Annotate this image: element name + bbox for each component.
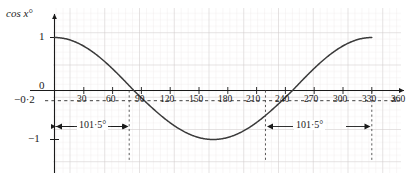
y-tick-label-1: 1 <box>39 31 45 42</box>
x-tick-label-360: 360 <box>391 95 405 105</box>
x-tick-label-240: 240 <box>275 95 289 105</box>
cosine-graph-figure: cos x° x 1 0 −0·2 −1 30 60 90 120 150 18… <box>0 0 414 181</box>
y-tick-label-neg-1: −1 <box>28 133 40 144</box>
y-tick-label-0: 0 <box>39 80 45 91</box>
x-tick-label-30: 30 <box>77 95 87 105</box>
y-tick-label-neg-0-2: −0·2 <box>14 94 35 105</box>
x-tick-label-210: 210 <box>246 95 260 105</box>
left-span-label: 101·5° <box>77 120 108 130</box>
x-tick-label-180: 180 <box>218 95 232 105</box>
x-tick-label-120: 120 <box>160 95 174 105</box>
x-tick-label-90: 90 <box>135 95 145 105</box>
plot-canvas <box>0 0 414 181</box>
x-tick-label-300: 300 <box>333 95 347 105</box>
x-tick-label-60: 60 <box>106 95 116 105</box>
y-axis-title: cos x° <box>6 8 33 19</box>
x-tick-label-330: 330 <box>362 95 376 105</box>
x-tick-label-270: 270 <box>304 95 318 105</box>
right-span-label: 101·5° <box>294 120 325 130</box>
x-tick-label-150: 150 <box>189 95 203 105</box>
